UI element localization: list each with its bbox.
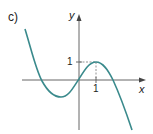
x-axis-arrow-icon xyxy=(139,78,146,83)
part-label: c) xyxy=(8,11,18,23)
x-tick-label: 1 xyxy=(93,84,99,94)
y-axis-label: y xyxy=(69,10,75,21)
x-axis-label: x xyxy=(139,84,145,95)
graph-canvas xyxy=(0,0,153,134)
y-axis-arrow-icon xyxy=(77,14,82,21)
y-tick-label: 1 xyxy=(67,57,73,67)
